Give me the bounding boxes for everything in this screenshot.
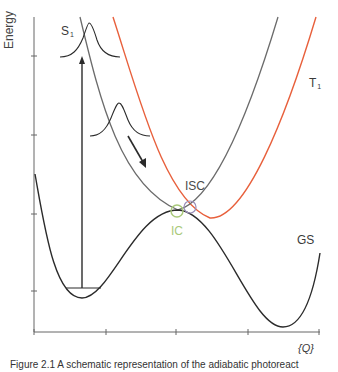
gs-label: GS [297,234,314,246]
energy-diagram: Energy S1 T1 ISC IC GS {Q} Figure 2.1 A … [0,0,338,372]
wavepacket-relaxing [90,103,150,136]
t1-label-text: T [309,76,316,90]
diagram-canvas [0,0,338,372]
excitation-arrow [79,56,85,288]
s1-label-subscript: 1 [70,31,74,38]
arrowhead-icon [79,56,85,64]
isc-label: ISC [185,180,205,192]
arrowhead-icon [139,158,146,168]
s1-label-text: S [61,24,69,38]
relaxation-arrow [128,136,146,168]
s1-label: S1 [61,25,74,38]
gs-curve [35,174,320,327]
t1-curve [113,17,316,218]
x-axis-label: {Q} [298,343,314,354]
t1-label-subscript: 1 [317,83,321,90]
t1-label: T1 [309,77,321,90]
ic-label: IC [171,225,183,237]
s1-curve [80,17,278,210]
figure-caption: Figure 2.1 A schematic representation of… [10,359,299,370]
axes [31,17,320,335]
y-axis-label: Energy [3,11,15,49]
